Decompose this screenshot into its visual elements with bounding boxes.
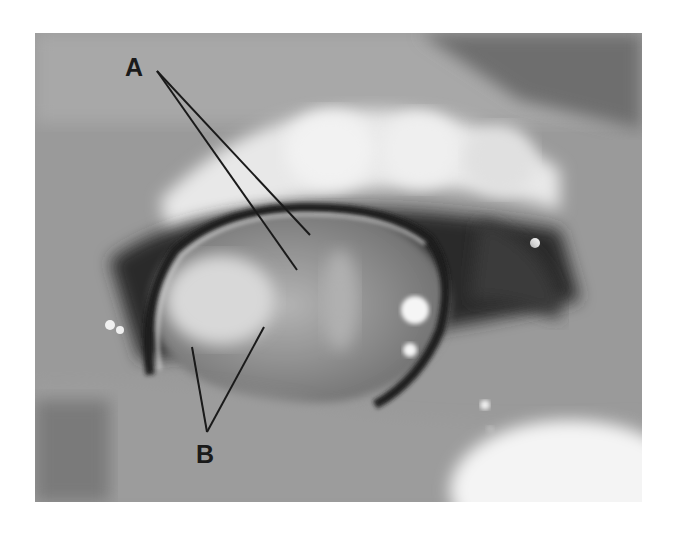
label-b: B (196, 442, 214, 467)
label-a: A (125, 55, 143, 80)
photo-rendering (35, 33, 642, 502)
clinical-photo (35, 33, 642, 502)
